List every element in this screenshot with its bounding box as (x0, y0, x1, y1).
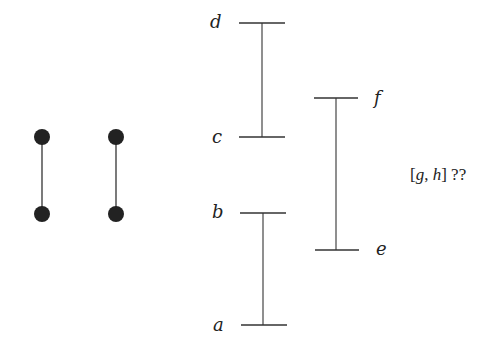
dot-bottom-left (34, 206, 50, 222)
dot-top-right (108, 129, 124, 145)
interval-cd (239, 23, 285, 137)
label-a: a (213, 316, 224, 334)
comma: , (424, 165, 433, 184)
label-b: b (212, 203, 224, 221)
label-f: f (374, 89, 381, 107)
interval-ef (314, 98, 359, 250)
interval-question: [g, h] ?? (410, 166, 466, 183)
label-h: h (433, 165, 442, 184)
label-e: e (376, 240, 387, 258)
dot-bottom-right (108, 206, 124, 222)
label-c: c (212, 128, 222, 146)
dumbbell-left (34, 129, 50, 222)
dumbbell-right (108, 129, 124, 222)
label-d: d (210, 13, 222, 31)
question-marks: ?? (447, 165, 466, 184)
interval-ab (240, 213, 287, 325)
label-g: g (416, 165, 425, 184)
dot-top-left (34, 129, 50, 145)
